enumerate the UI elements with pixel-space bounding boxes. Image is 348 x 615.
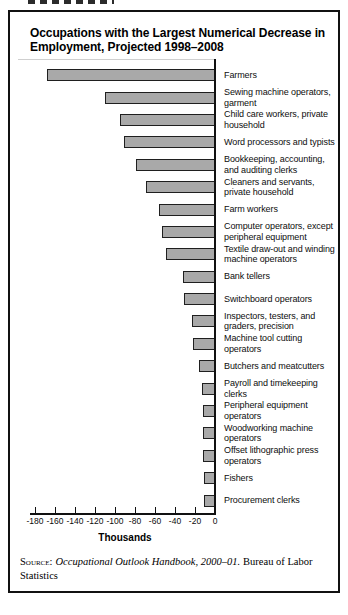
source-note: Source:Occupational Outlook Handbook, 20… <box>20 555 326 582</box>
bar-track <box>10 427 215 439</box>
axis-tick <box>35 507 37 513</box>
bar <box>105 92 215 104</box>
axis-tick <box>115 507 117 513</box>
zero-baseline <box>214 59 216 514</box>
axis-tick <box>75 507 77 513</box>
axis-tick <box>55 507 57 513</box>
bar-row: Peripheral equipment operators <box>10 400 338 422</box>
bar-row: Woodworking machine operators <box>10 422 338 444</box>
chart-title: Occupations with the Largest Numerical D… <box>30 27 330 54</box>
bar-row: Machine tool cutting operators <box>10 333 338 355</box>
bar <box>146 181 215 193</box>
bar-track <box>10 248 215 260</box>
x-axis-title: Thousands <box>35 532 215 543</box>
bar-label: Offset lithographic press operators <box>215 445 338 466</box>
bar-track <box>10 136 215 148</box>
source-label: Source: <box>20 556 52 567</box>
bar-track <box>10 271 215 283</box>
bar-track <box>10 293 215 305</box>
bar-track <box>10 92 215 104</box>
bar-label: Machine tool cutting operators <box>215 333 338 354</box>
axis-tick <box>155 507 157 513</box>
bar-track <box>10 450 215 462</box>
bar-row: Textile draw-out and winding machine ope… <box>10 243 338 265</box>
bar-track <box>10 495 215 507</box>
figure-panel: Occupations with the Largest Numerical D… <box>8 10 340 593</box>
plot-top-rule <box>18 59 215 60</box>
bar-label: Bookkeeping, accounting, and auditing cl… <box>215 154 338 175</box>
bar-label: Peripheral equipment operators <box>215 400 338 421</box>
axis-tick-label: 0 <box>200 516 230 526</box>
chart: Occupations with the Largest Numerical D… <box>10 12 338 591</box>
axis-tick <box>175 507 177 513</box>
axis-tick <box>195 507 197 513</box>
bar <box>199 360 215 372</box>
bar-track <box>10 360 215 372</box>
axis-tick <box>95 507 97 513</box>
bar-track <box>10 204 215 216</box>
bar-track <box>10 114 215 126</box>
x-axis-line <box>30 513 216 515</box>
bar-track <box>10 383 215 395</box>
bar <box>120 114 215 126</box>
bar-row: Farmers <box>10 64 338 86</box>
bar-rows: FarmersSewing machine operators, garment… <box>10 64 338 512</box>
bar <box>183 271 215 283</box>
bar-track <box>10 226 215 238</box>
bar-row: Offset lithographic press operators <box>10 445 338 467</box>
bar <box>184 293 215 305</box>
bar-label: Sewing machine operators, garment <box>215 87 338 108</box>
bar-row: Butchers and meatcutters <box>10 355 338 377</box>
bar-track <box>10 181 215 193</box>
bar-label: Word processors and typists <box>215 137 338 148</box>
bar-row: Inspectors, testers, and graders, precis… <box>10 310 338 332</box>
bar-row: Child care workers, private household <box>10 109 338 131</box>
chart-title-line2: Employment, Projected 1998–2008 <box>30 41 330 55</box>
bar-row: Fishers <box>10 467 338 489</box>
bar-label: Fishers <box>215 473 338 484</box>
bar-label: Payroll and timekeeping clerks <box>215 378 338 399</box>
chart-title-line1: Occupations with the Largest Numerical D… <box>30 27 330 41</box>
bar-label: Woodworking machine operators <box>215 423 338 444</box>
bar <box>166 248 215 260</box>
bar-row: Word processors and typists <box>10 131 338 153</box>
bar-label: Bank tellers <box>215 271 338 282</box>
bar <box>159 204 215 216</box>
bar-row: Bank tellers <box>10 266 338 288</box>
bar <box>193 338 215 350</box>
bar-row: Computer operators, except peripheral eq… <box>10 221 338 243</box>
bar-row: Cleaners and servants, private household <box>10 176 338 198</box>
bar-label: Child care workers, private household <box>215 109 338 130</box>
bar-track <box>10 338 215 350</box>
bar-label: Inspectors, testers, and graders, precis… <box>215 311 338 332</box>
bar <box>192 315 215 327</box>
bar-row: Switchboard operators <box>10 288 338 310</box>
bar-label: Cleaners and servants, private household <box>215 177 338 198</box>
bar-track <box>10 405 215 417</box>
axis-tick <box>215 507 217 513</box>
bar <box>124 136 215 148</box>
bar-label: Computer operators, except peripheral eq… <box>215 221 338 242</box>
bar-label: Procurement clerks <box>215 495 338 506</box>
bar <box>47 69 215 81</box>
bar-track <box>10 69 215 81</box>
bar-label: Switchboard operators <box>215 294 338 305</box>
bar-track <box>10 315 215 327</box>
cropped-text-fragment <box>28 0 114 4</box>
source-work-title: Occupational Outlook Handbook, 2000–01. <box>55 556 240 567</box>
bar-track <box>10 159 215 171</box>
bar-row: Farm workers <box>10 198 338 220</box>
bar <box>162 226 215 238</box>
bar-label: Butchers and meatcutters <box>215 361 338 372</box>
bar-row: Payroll and timekeeping clerks <box>10 377 338 399</box>
bar-label: Textile draw-out and winding machine ope… <box>215 244 338 265</box>
bar <box>136 159 215 171</box>
bar-track <box>10 472 215 484</box>
bar-row: Bookkeeping, accounting, and auditing cl… <box>10 154 338 176</box>
bar-label: Farm workers <box>215 204 338 215</box>
bar-row: Sewing machine operators, garment <box>10 86 338 108</box>
axis-tick <box>135 507 137 513</box>
bar-label: Farmers <box>215 70 338 81</box>
